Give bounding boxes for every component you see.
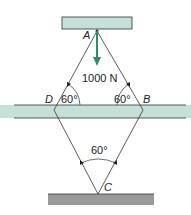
label-D: D: [45, 93, 53, 105]
label-B: B: [143, 93, 150, 105]
top-support-plate: [62, 17, 132, 29]
truss-diagram: A 1000 N D 60° 60° B 60° C: [0, 0, 191, 215]
angle-label-D: 60°: [61, 93, 78, 105]
label-A: A: [82, 29, 90, 41]
label-C: C: [104, 181, 112, 193]
angle-arrow-B-icon: [126, 82, 130, 87]
angle-label-B: 60°: [114, 93, 131, 105]
load-arrow-head-icon: [93, 57, 101, 66]
load-label: 1000 N: [82, 72, 118, 84]
horizontal-beam: [0, 105, 191, 118]
angle-label-C: 60°: [91, 144, 108, 156]
angle-arc-C: [81, 159, 116, 163]
ground-support: [48, 194, 154, 205]
